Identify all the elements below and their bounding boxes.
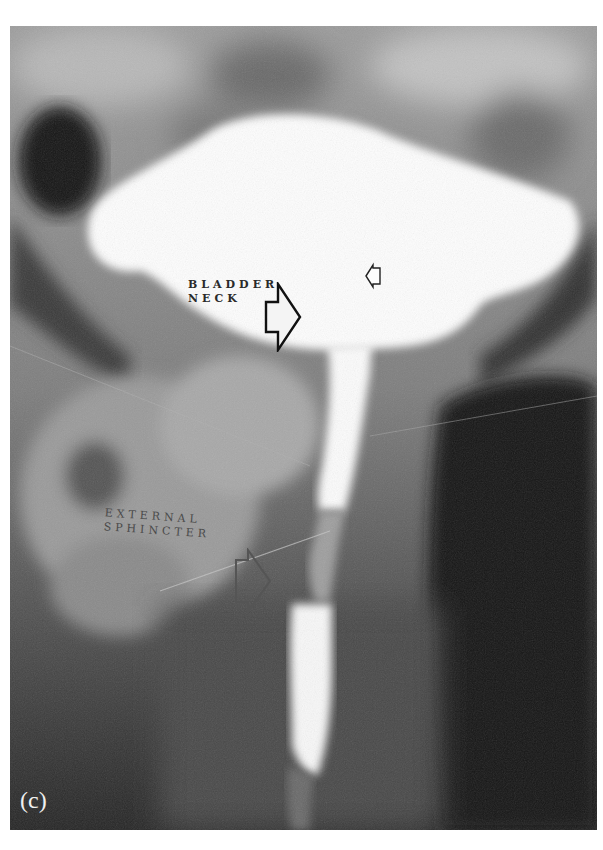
bladder-neck-label-line1: BLADDER [188, 278, 278, 292]
panel-label: (c) [20, 787, 47, 814]
radiograph-image: BLADDER NECK EXTERNAL SPHINCTER (c) [10, 26, 597, 830]
bladder-neck-label-line2: NECK [188, 292, 278, 306]
bladder-neck-label: BLADDER NECK [188, 278, 278, 306]
small-bladder-arrow-icon [365, 262, 383, 290]
external-sphincter-arrow-icon [234, 548, 274, 614]
radiograph-drawing [10, 26, 597, 830]
